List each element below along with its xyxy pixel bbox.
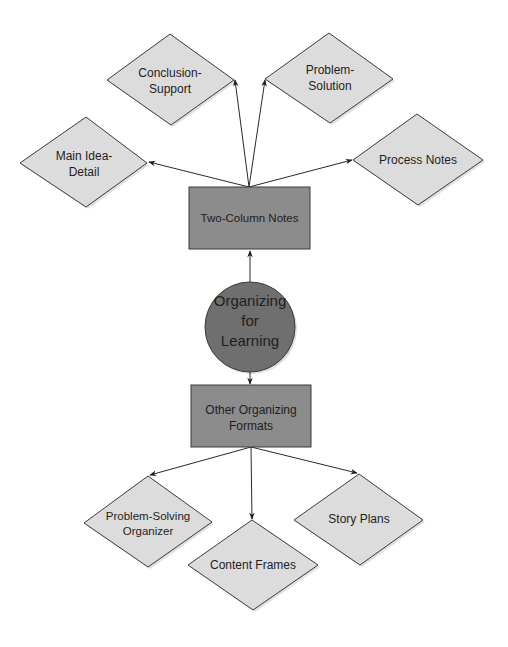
diamond-story-plans[interactable]: Story Plans [294, 474, 425, 567]
organizing-for-learning-diagram: Conclusion- Support Problem- Solution Ma… [0, 0, 508, 647]
problem-solution-line1: Problem- [306, 63, 355, 77]
edge-to-story-plans [251, 447, 357, 473]
diamond-problem-solution[interactable]: Problem- Solution [265, 33, 395, 125]
main-idea-detail-line2: Detail [69, 165, 100, 179]
diamond-content-frames[interactable]: Content Frames [188, 520, 320, 612]
two-column-notes-label: Two-Column Notes [201, 212, 299, 224]
conclusion-support-line2: Support [149, 82, 192, 96]
hub-line2: for [241, 312, 259, 329]
diamond-conclusion-support[interactable]: Conclusion- Support [107, 34, 236, 127]
box-two-column-notes[interactable]: Two-Column Notes [189, 187, 310, 249]
edge-to-main-idea-detail [149, 162, 249, 187]
conclusion-support-line1: Conclusion- [138, 66, 201, 80]
edge-to-conclusion-support [235, 80, 249, 187]
other-formats-line1: Other Organizing [205, 403, 296, 417]
diamond-problem-solving-organizer[interactable]: Problem-Solving Organizer [84, 476, 214, 569]
other-formats-line2: Formats [229, 419, 273, 433]
edge-to-problem-solving-organizer [150, 447, 251, 475]
box-other-organizing-formats[interactable]: Other Organizing Formats [191, 385, 311, 447]
hub-line3: Learning [221, 332, 279, 349]
problem-solving-organizer-line1: Problem-Solving [106, 510, 190, 522]
edge-to-problem-solution [249, 80, 265, 187]
hub-organizing-for-learning[interactable]: Organizing for Learning [205, 282, 297, 374]
content-frames-label: Content Frames [210, 558, 296, 572]
diamond-main-idea-detail[interactable]: Main Idea- Detail [20, 117, 149, 209]
problem-solving-organizer-line2: Organizer [123, 525, 174, 537]
story-plans-label: Story Plans [328, 512, 389, 526]
main-idea-detail-line1: Main Idea- [56, 149, 113, 163]
edge-to-content-frames [251, 447, 252, 519]
diamond-process-notes[interactable]: Process Notes [353, 114, 485, 207]
process-notes-label: Process Notes [379, 153, 457, 167]
problem-solution-line2: Solution [308, 79, 351, 93]
hub-line1: Organizing [214, 292, 287, 309]
edge-to-process-notes [249, 160, 352, 187]
